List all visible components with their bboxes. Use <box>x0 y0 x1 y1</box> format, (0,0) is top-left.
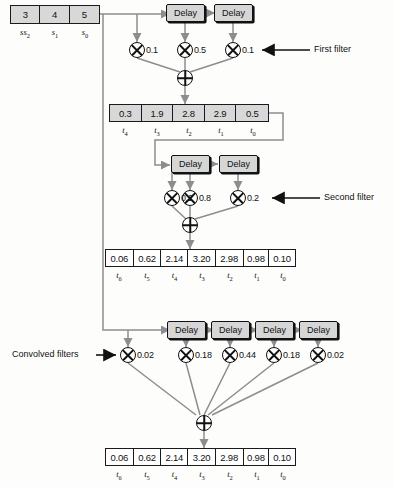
second-filter-label: Second filter <box>324 192 374 202</box>
register-tick-label: t3 <box>141 125 173 137</box>
register-tick-label: t2 <box>216 469 244 481</box>
coefficient-s1-3: 0.1 <box>242 45 254 55</box>
register-cell: 0.62 <box>134 250 162 266</box>
input-signal-register: 3 4 5 <box>10 5 100 24</box>
register-tick-label: t1 <box>244 469 270 481</box>
register-tick-label: t6 <box>105 469 133 481</box>
register-tick-label: t4 <box>161 469 188 481</box>
register-cell: 0.5 <box>236 105 268 121</box>
multiplier-node-s2-3 <box>230 190 246 206</box>
adder-node-s3 <box>196 415 212 431</box>
register-cell: 0.10 <box>269 449 295 465</box>
coefficient-s1-2: 0.5 <box>194 45 206 55</box>
register-cell: 0.10 <box>269 250 295 266</box>
delay-block-s2-2: Delay <box>219 155 258 173</box>
register-cell: 2.98 <box>216 449 244 465</box>
input-cell: 3 <box>11 6 40 23</box>
register-cell: 0.06 <box>106 250 134 266</box>
register-tick-label: t5 <box>133 270 161 282</box>
multiplier-node-s1-3 <box>225 42 241 58</box>
register-cell: 0.98 <box>244 250 270 266</box>
filter-cascade-diagram: 3 4 5 ss2s2 s1 s0 Delay Delay 0.1 0.5 0.… <box>0 0 394 487</box>
register-cell: 0.98 <box>244 449 270 465</box>
coefficient-s3-1: 0.02 <box>137 350 154 360</box>
register-tick-label: t2 <box>216 270 244 282</box>
multiplier-node-s3-4 <box>266 347 282 363</box>
coefficient-s1-1: 0.1 <box>146 45 158 55</box>
multiplier-node-s3-2 <box>178 347 194 363</box>
input-tick-label: ss2s2 <box>15 27 35 39</box>
register-cell: 0.06 <box>106 449 134 465</box>
register-cell: 0.3 <box>110 105 142 121</box>
register-tick-label: t3 <box>188 469 216 481</box>
register-cell: 3.20 <box>188 449 216 465</box>
input-tick-label: s0 <box>75 27 95 39</box>
register-tick-label: t1 <box>244 270 270 282</box>
coefficient-s2-2: 0.8 <box>199 193 211 203</box>
input-cell: 5 <box>70 6 99 23</box>
stage1-output-register: 0.3 1.9 2.8 2.9 0.5 <box>109 104 269 122</box>
stage2-output-register: 0.06 0.62 2.14 3.20 2.98 0.98 0.10 <box>105 249 296 267</box>
delay-block-s3-4: Delay <box>299 321 338 339</box>
register-cell: 2.9 <box>205 105 237 121</box>
multiplier-node-s3-5 <box>310 347 326 363</box>
register-tick-label: t6 <box>105 270 133 282</box>
register-tick-label: t4 <box>109 125 141 137</box>
register-tick-label: t4 <box>161 270 188 282</box>
convolved-filters-label: Convolved filters <box>12 349 79 359</box>
delay-block-s3-1: Delay <box>167 321 206 339</box>
register-cell: 2.14 <box>161 449 188 465</box>
delay-block-s3-3: Delay <box>255 321 294 339</box>
register-tick-label: t3 <box>188 270 216 282</box>
first-filter-label: First filter <box>314 44 351 54</box>
coefficient-s3-3: 0.44 <box>239 350 256 360</box>
coefficient-s2-1: 0.2 <box>181 193 193 203</box>
adder-node-s2 <box>182 217 198 233</box>
coefficient-s3-4: 0.18 <box>283 350 300 360</box>
register-cell: 1.9 <box>142 105 174 121</box>
multiplier-node-s3-1 <box>120 347 136 363</box>
adder-node-s1 <box>177 70 193 86</box>
register-cell: 3.20 <box>188 250 216 266</box>
delay-block-s1-1: Delay <box>166 4 205 22</box>
multiplier-node-s3-3 <box>222 347 238 363</box>
delay-block-s1-2: Delay <box>214 4 253 22</box>
register-cell: 2.14 <box>161 250 188 266</box>
coefficient-s2-3: 0.2 <box>247 193 259 203</box>
input-cell: 4 <box>40 6 69 23</box>
register-tick-label: t1 <box>205 125 237 137</box>
delay-block-s3-2: Delay <box>211 321 250 339</box>
register-cell: 0.62 <box>134 449 162 465</box>
input-tick-label: s1 <box>45 27 65 39</box>
multiplier-node-s2-1 <box>164 190 180 206</box>
register-tick-label: t0 <box>270 270 296 282</box>
stage3-output-register: 0.06 0.62 2.14 3.20 2.98 0.98 0.10 <box>105 448 296 466</box>
register-tick-label: t5 <box>133 469 161 481</box>
delay-block-s2-1: Delay <box>171 155 210 173</box>
signal-wires <box>0 0 394 487</box>
register-tick-label: t2 <box>173 125 205 137</box>
multiplier-node-s1-2 <box>177 42 193 58</box>
register-tick-label: t0 <box>237 125 269 137</box>
coefficient-s3-2: 0.18 <box>195 350 212 360</box>
register-tick-label: t0 <box>270 469 296 481</box>
multiplier-node-s1-1 <box>129 42 145 58</box>
coefficient-s3-5: 0.02 <box>327 350 344 360</box>
register-cell: 2.98 <box>216 250 244 266</box>
register-cell: 2.8 <box>173 105 205 121</box>
